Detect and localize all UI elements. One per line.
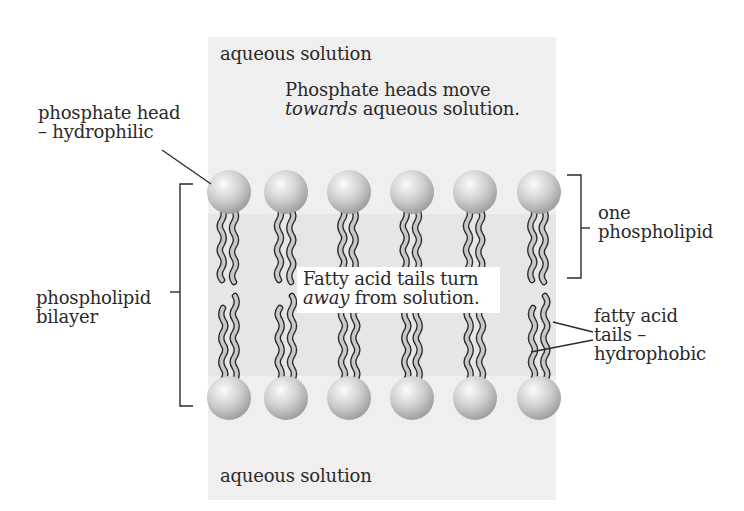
one-phospholipid-bracket [567, 175, 590, 278]
phosphate-head-icon [327, 170, 371, 214]
heads-caption-line2: towards aqueous solution. [285, 99, 520, 118]
phosphate-head-icon [517, 376, 561, 420]
phospholipid-bilayer-label: phospholipid bilayer [36, 288, 151, 326]
phosphate-head-label: phosphate head – hydrophilic [38, 103, 180, 141]
bottom-aqueous-solution-label: aqueous solution [220, 466, 372, 485]
fatty-acid-tails-label: fatty acid tails – hydrophobic [594, 306, 706, 363]
phosphate-head-label-line2: – hydrophilic [38, 122, 180, 141]
bilayer-label-line2: bilayer [36, 307, 151, 326]
fatty-acid-tails-line1: fatty acid [594, 306, 706, 325]
tails-caption-line1: Fatty acid tails turn [303, 269, 479, 288]
tails-pointer-lower [531, 340, 593, 352]
heads-caption: Phosphate heads move towards aqueous sol… [285, 80, 520, 118]
one-phospholipid-line1: one [598, 203, 713, 222]
away-emphasis: away [303, 287, 349, 308]
heads-caption-line1: Phosphate heads move [285, 80, 520, 99]
tails-caption-line2: away from solution. [303, 288, 479, 307]
phosphate-head-icon [453, 170, 497, 214]
top-aqueous-solution-label: aqueous solution [220, 44, 372, 63]
tails-caption-line2-rest: from solution. [349, 287, 479, 308]
bilayer-label-line1: phospholipid [36, 288, 151, 307]
phosphate-head-icon [264, 376, 308, 420]
fatty-acid-tails-line3: hydrophobic [594, 344, 706, 363]
tails-pointer-upper [553, 322, 593, 332]
phosphate-head-icon [390, 376, 434, 420]
phosphate-head-icon [207, 376, 251, 420]
one-phospholipid-label: one phospholipid [598, 203, 713, 241]
phosphate-head-icon [390, 170, 434, 214]
heads-caption-line2-rest: aqueous solution. [357, 98, 520, 119]
phosphate-head-icon [453, 376, 497, 420]
fatty-acid-tails-line2: tails – [594, 325, 706, 344]
phosphate-head-icon [264, 170, 308, 214]
bilayer-bracket [170, 184, 193, 406]
phosphate-head-icon [517, 170, 561, 214]
phosphate-head-pointer [162, 150, 211, 184]
tails-caption: Fatty acid tails turn away from solution… [303, 269, 479, 307]
one-phospholipid-line2: phospholipid [598, 222, 713, 241]
bilayer-illustration [0, 0, 744, 511]
phosphate-head-label-line1: phosphate head [38, 103, 180, 122]
phosphate-head-icon [327, 376, 371, 420]
towards-emphasis: towards [285, 98, 357, 119]
phosphate-head-icon [207, 170, 251, 214]
